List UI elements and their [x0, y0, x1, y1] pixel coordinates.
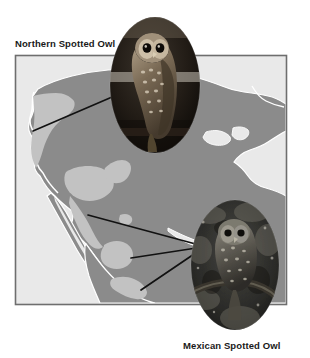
label-northern-spotted-owl: Northern Spotted Owl	[15, 38, 115, 49]
spotted-owl-range-figure: Northern Spotted Owl Mexican Spotted Owl	[0, 0, 310, 358]
label-mexican-spotted-owl: Mexican Spotted Owl	[183, 340, 280, 351]
range-map-graphic	[0, 0, 310, 358]
great-lakes-east	[232, 127, 249, 140]
northern-spotted-owl-photo	[110, 16, 200, 154]
range-mexican-sierra-madre	[101, 241, 133, 269]
